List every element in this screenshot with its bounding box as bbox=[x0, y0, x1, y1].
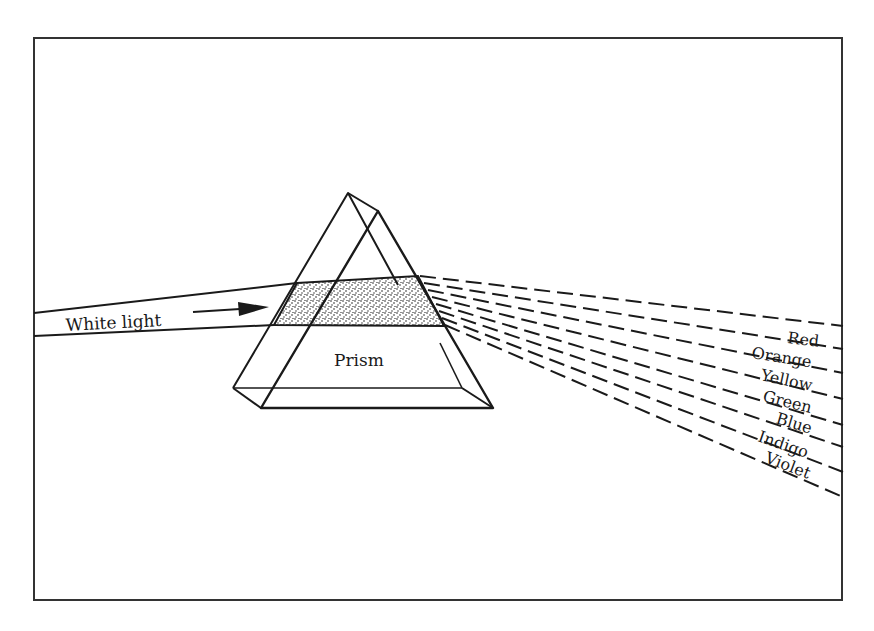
prism-diagram: White light Prism Red Orange Yellow Gree… bbox=[0, 0, 874, 631]
spectrum-label-red: Red bbox=[787, 328, 821, 351]
prism-label: Prism bbox=[334, 350, 384, 370]
refracted-beam-region bbox=[274, 276, 444, 326]
arrow-icon bbox=[193, 302, 269, 316]
